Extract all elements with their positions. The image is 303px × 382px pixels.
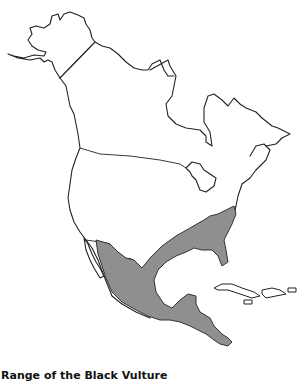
arctic-coast-outline	[95, 42, 174, 76]
black-vulture-range	[96, 206, 236, 346]
us-canada-border	[80, 148, 186, 168]
hudson-bay-outline	[150, 60, 290, 146]
puerto-rico-outline	[288, 288, 296, 292]
hispaniola-outline	[262, 288, 286, 298]
alaska-canada-border	[60, 42, 95, 78]
cuba-outline	[214, 284, 260, 298]
northeast-coast-outline	[234, 144, 270, 214]
map-caption: Range of the Black Vulture	[1, 369, 167, 382]
jamaica-outline	[244, 300, 252, 304]
alaska-outline	[8, 12, 95, 78]
great-lakes-outline	[186, 162, 216, 192]
